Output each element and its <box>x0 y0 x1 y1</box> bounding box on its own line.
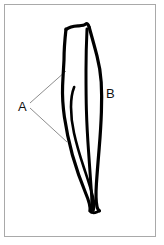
label-a: A <box>18 99 27 114</box>
leader-line-a-lower <box>30 108 67 142</box>
figure-container: A B <box>0 0 164 245</box>
bone-outline-distal-tip <box>90 211 99 213</box>
anatomical-line-drawing: A B <box>0 0 164 245</box>
label-b: B <box>106 86 115 101</box>
leader-line-a-upper <box>30 71 66 103</box>
